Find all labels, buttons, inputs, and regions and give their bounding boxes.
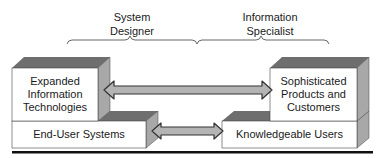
top-left-box-top	[12, 57, 110, 68]
top-double-arrow	[104, 81, 272, 99]
label-line: Technologies	[12, 101, 98, 114]
role-line: System	[92, 10, 172, 24]
top-right-box-top	[270, 57, 369, 68]
label-line: Sophisticated	[270, 75, 357, 88]
box-label-expanded-information-technologies: Expanded Information Technologies	[12, 75, 98, 114]
label-line: Products and	[270, 88, 357, 101]
top-right-box-side	[357, 57, 369, 121]
role-line: Designer	[92, 24, 172, 38]
label-line: Expanded	[12, 75, 98, 88]
role-line: Specialist	[220, 24, 320, 38]
box-label-sophisticated-products: Sophisticated Products and Customers	[270, 75, 357, 114]
label-line: Knowledgeable Users	[222, 128, 357, 141]
bottom-double-arrow	[152, 123, 223, 139]
bottom-rule	[12, 151, 373, 154]
label-line: End-User Systems	[12, 128, 146, 141]
role-line: Information	[220, 10, 320, 24]
label-line: Customers	[270, 101, 357, 114]
box-label-knowledgeable-users: Knowledgeable Users	[222, 128, 357, 141]
box-label-end-user-systems: End-User Systems	[12, 128, 146, 141]
role-information-specialist: Information Specialist	[220, 10, 320, 38]
role-system-designer: System Designer	[92, 10, 172, 38]
label-line: Information	[12, 88, 98, 101]
